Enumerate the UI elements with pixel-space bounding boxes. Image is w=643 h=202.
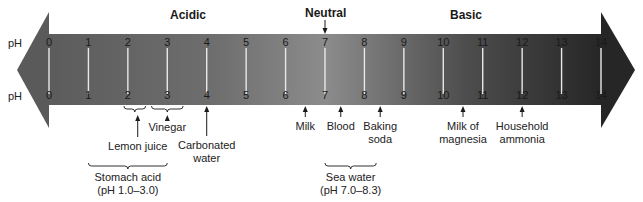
tick-label-bottom: 7 [313, 89, 337, 102]
base-arrow-head [601, 12, 635, 128]
tick-label-top: 14 [589, 36, 613, 49]
substance-label: Lemon juice [98, 140, 178, 153]
tick-label-bottom: 9 [392, 89, 416, 102]
tick-label-top: 1 [76, 36, 100, 49]
tick-label-bottom: 14 [589, 89, 613, 102]
neutral-label: Neutral [305, 6, 346, 20]
tick-label-top: 2 [116, 36, 140, 49]
pointer-arrow-icon [338, 106, 343, 112]
substance-label-line1: Vinegar [127, 121, 207, 134]
substance-label-line1: Household [482, 120, 562, 133]
brace-icon [88, 163, 167, 169]
neutral-arrow-icon [323, 28, 328, 34]
substance-label: Vinegar [127, 121, 207, 134]
range-label-line2: (pH 1.0–3.0) [78, 184, 178, 197]
tick-label-bottom: 11 [471, 89, 495, 102]
pointer-arrow-icon [461, 106, 466, 112]
basic-label: Basic [450, 8, 482, 22]
tick-label-top: 5 [234, 36, 258, 49]
substance-label: Householdammonia [482, 120, 562, 146]
range-label: Stomach acid(pH 1.0–3.0) [78, 171, 178, 197]
tick-label-bottom: 5 [234, 89, 258, 102]
tick-label-bottom: 8 [352, 89, 376, 102]
tick-label-bottom: 2 [116, 89, 140, 102]
tick-label-bottom: 1 [76, 89, 100, 102]
range-label-line1: Stomach acid [78, 171, 178, 184]
brace-icon [325, 163, 376, 169]
substance-label-line1: Baking [340, 120, 420, 133]
tick-label-bottom: 12 [510, 89, 534, 102]
pointer-arrow-icon [520, 106, 525, 112]
tick-label-bottom: 3 [155, 89, 179, 102]
tick-label-top: 9 [392, 36, 416, 49]
tick-label-top: 0 [37, 36, 61, 49]
tick-label-bottom: 13 [550, 89, 574, 102]
pointer-arrow-icon [204, 106, 209, 112]
range-label: Sea water(pH 7.0–8.3) [301, 171, 401, 197]
tick-label-top: 12 [510, 36, 534, 49]
substance-label-line2: ammonia [482, 133, 562, 146]
substance-label-line2: soda [340, 133, 420, 146]
substance-label-line1: Carbonated [167, 139, 247, 152]
tick-label-bottom: 4 [195, 89, 219, 102]
substance-label-line1: Lemon juice [98, 140, 178, 153]
tick-label-bottom: 10 [431, 89, 455, 102]
tick-label-top: 4 [195, 36, 219, 49]
tick-label-top: 10 [431, 36, 455, 49]
acidic-label: Acidic [170, 8, 206, 22]
ph-axis-label-top: pH [8, 37, 22, 49]
tick-label-top: 8 [352, 36, 376, 49]
range-label-line2: (pH 7.0–8.3) [301, 184, 401, 197]
brace-icon [152, 106, 184, 112]
substance-label-line2: water [167, 152, 247, 165]
pointer-arrow-icon [378, 106, 383, 112]
tick-label-top: 3 [155, 36, 179, 49]
acid-arrow-head [17, 12, 49, 128]
tick-label-bottom: 6 [274, 89, 298, 102]
range-label-line1: Sea water [301, 171, 401, 184]
tick-label-top: 13 [550, 36, 574, 49]
brace-icon [124, 106, 146, 112]
substance-label: Carbonatedwater [167, 139, 247, 165]
tick-label-top: 11 [471, 36, 495, 49]
tick-label-bottom: 0 [37, 89, 61, 102]
tick-label-top: 7 [313, 36, 337, 49]
tick-label-top: 6 [274, 36, 298, 49]
substance-label: Bakingsoda [340, 120, 420, 146]
pointer-arrow-icon [303, 106, 308, 112]
ph-axis-label-bottom: pH [8, 90, 22, 102]
